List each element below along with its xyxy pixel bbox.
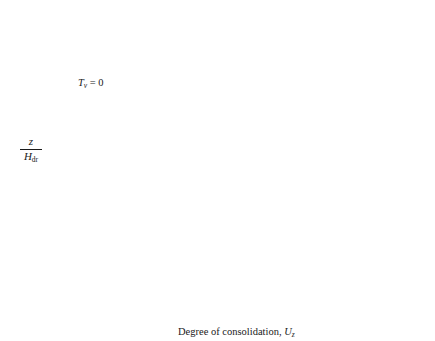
chart-canvas	[0, 0, 435, 341]
consolidation-isochrone-chart: z Hdr Degree of consolidation, Uz Tv = 0	[0, 0, 435, 341]
x-axis-label: Degree of consolidation, Uz	[178, 327, 295, 338]
y-axis-label-numerator: z	[14, 136, 48, 148]
annotation-tv-zero: Tv = 0	[78, 78, 104, 89]
y-axis-label-denominator: Hdr	[14, 151, 48, 164]
y-axis-label: z Hdr	[14, 136, 48, 163]
